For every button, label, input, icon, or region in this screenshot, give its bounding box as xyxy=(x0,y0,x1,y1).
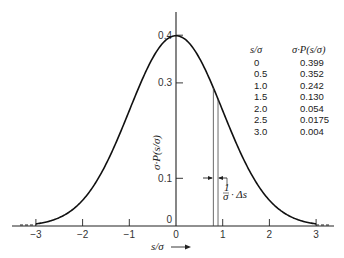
y-tick-label: 0 xyxy=(166,214,172,225)
table-row: 2.50.0175 xyxy=(250,114,344,126)
x-tick-label: −2 xyxy=(77,229,89,240)
y-axis-label: σ·P(s/σ) xyxy=(150,135,163,170)
table-row: 00.399 xyxy=(250,57,344,69)
table-header: s/σ σ·P(s/σ) xyxy=(250,44,344,56)
x-axis-label: s/σ xyxy=(151,240,191,252)
col-header-p: σ·P(s/σ) xyxy=(292,44,344,56)
table-row: 1.50.130 xyxy=(250,91,344,103)
y-tick-label: 0.3 xyxy=(158,77,172,88)
x-tick-label: 3 xyxy=(313,229,319,240)
col-header-s: s/σ xyxy=(250,44,292,56)
x-tick-label: 2 xyxy=(267,229,273,240)
x-ticks: −3−2−10123 xyxy=(30,219,319,240)
delta-s-label: 1 σ · Δs xyxy=(223,181,247,202)
x-tick-label: −1 xyxy=(124,229,136,240)
svg-text:s/σ: s/σ xyxy=(151,240,164,252)
x-tick-label: 0 xyxy=(173,229,179,240)
table-row: 0.50.352 xyxy=(250,68,344,80)
x-tick-label: 1 xyxy=(220,229,226,240)
svg-text:σ: σ xyxy=(223,190,229,202)
table-row: 3.00.004 xyxy=(250,126,344,138)
y-tick-label: 0.4 xyxy=(158,30,172,41)
y-tick-label: 0.1 xyxy=(158,173,172,184)
x-tick-label: −3 xyxy=(30,229,42,240)
svg-text:· Δs: · Δs xyxy=(231,188,247,200)
values-table: s/σ σ·P(s/σ) 00.399 0.50.352 1.00.242 1.… xyxy=(250,44,344,137)
y-ticks: 00.10.30.4 xyxy=(158,30,183,225)
table-row: 1.00.242 xyxy=(250,80,344,92)
table-row: 2.00.054 xyxy=(250,103,344,115)
